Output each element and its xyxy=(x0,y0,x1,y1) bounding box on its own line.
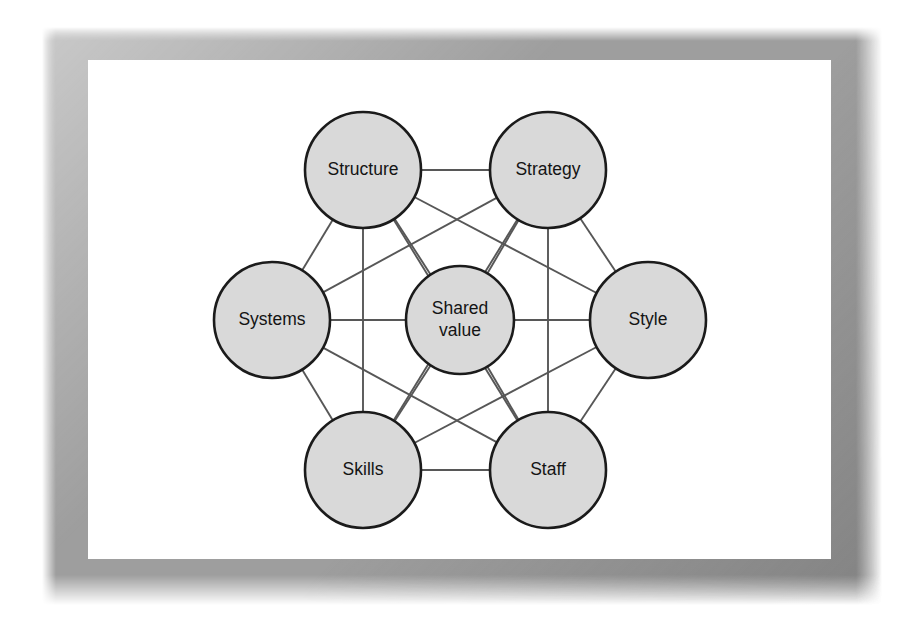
figure-root: StructureStrategySystemsSharedvalueStyle… xyxy=(0,0,921,622)
node-shared-value[interactable]: Sharedvalue xyxy=(406,266,514,374)
node-style[interactable]: Style xyxy=(590,262,706,378)
node-label-systems: Systems xyxy=(238,309,305,329)
node-label-strategy: Strategy xyxy=(515,159,580,179)
node-structure[interactable]: Structure xyxy=(305,112,421,228)
node-skills[interactable]: Skills xyxy=(305,412,421,528)
node-label-style: Style xyxy=(629,309,668,329)
node-systems[interactable]: Systems xyxy=(214,262,330,378)
node-staff[interactable]: Staff xyxy=(490,412,606,528)
node-label-staff: Staff xyxy=(530,459,566,479)
node-label-structure: Structure xyxy=(328,159,399,179)
node-strategy[interactable]: Strategy xyxy=(490,112,606,228)
node-label-skills: Skills xyxy=(343,459,384,479)
